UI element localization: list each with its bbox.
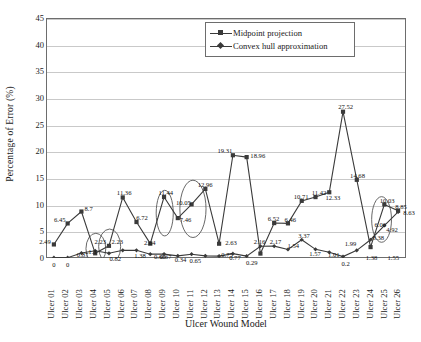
data-point-marker (66, 221, 70, 225)
y-axis-tick-label: 20 (28, 146, 44, 156)
data-point-marker (245, 155, 249, 159)
data-point-label: 6.52 (268, 215, 280, 222)
y-axis-tick-label: 40 (28, 40, 44, 50)
line-marker-square-icon (209, 28, 233, 38)
data-point-label: 2.16 (254, 238, 266, 245)
legend-item: Midpoint projection (209, 27, 350, 39)
x-axis-tick-label: Ulcer 04 (88, 289, 98, 319)
series-line (54, 112, 398, 254)
line-marker-diamond-icon (209, 41, 233, 51)
data-point-marker (107, 244, 111, 248)
data-point-label: 18.96 (250, 152, 265, 159)
data-point-label: 6.45 (54, 216, 66, 223)
data-point-marker (341, 110, 345, 114)
x-axis-tick-label: Ulcer 02 (60, 289, 70, 319)
data-point-label: 10.71 (294, 193, 309, 200)
x-axis-tick-label: Ulcer 17 (268, 289, 278, 319)
x-axis-tick-label: Ulcer 10 (171, 289, 181, 319)
data-point-marker (52, 256, 56, 258)
x-axis-tick-label: Ulcer 20 (309, 289, 319, 319)
data-point-marker (121, 248, 125, 252)
x-axis-tick-label: Ulcer 18 (282, 289, 292, 319)
legend-label: Midpoint projection (233, 28, 302, 38)
legend: Midpoint projection Convex hull approxim… (205, 22, 355, 57)
x-axis-tick-label: Ulcer 06 (116, 289, 126, 319)
data-point-marker (52, 242, 56, 246)
data-point-marker (368, 245, 372, 249)
y-axis-tick-label: 25 (28, 120, 44, 130)
data-point-label: 2.23 (112, 238, 124, 245)
y-axis-tick-label: 5 (28, 226, 44, 236)
y-axis-tick-label: 10 (28, 200, 44, 210)
data-point-label: 12.33 (325, 194, 340, 201)
data-point-label: 7.46 (180, 216, 192, 223)
x-axis-tick-label: Ulcer 09 (157, 289, 167, 319)
x-axis-tick-label: Ulcer 25 (379, 289, 389, 319)
data-point-label: 14.68 (350, 172, 365, 179)
x-axis-tick-label: Ulcer 05 (102, 289, 112, 319)
data-point-marker (203, 254, 207, 258)
data-point-label: 3.37 (298, 232, 310, 239)
data-point-label: 12.96 (198, 181, 213, 188)
data-point-label: 2.49 (39, 238, 51, 245)
data-point-label: 11.44 (158, 189, 173, 196)
data-point-marker (79, 209, 83, 213)
data-point-label: 8.63 (403, 209, 415, 216)
data-point-label: 0.87 (77, 251, 89, 258)
x-axis-tick-label: Ulcer 11 (185, 289, 195, 319)
data-point-label: 1.99 (345, 240, 357, 247)
y-axis-tick-label: 15 (28, 173, 44, 183)
data-point-label: 10.05 (176, 199, 191, 206)
data-point-label: 2.17 (270, 238, 282, 245)
data-point-label: 6.06 (374, 221, 386, 228)
data-point-label: 1.3 (88, 248, 96, 255)
data-point-label: 11.42 (312, 189, 327, 196)
x-axis-title: Ulcer Wound Model (46, 318, 406, 329)
x-axis-tick-label: Ulcer 13 (212, 289, 222, 319)
x-axis-tick-label: Ulcer 03 (74, 289, 84, 319)
y-axis-tick-label: 0 (28, 253, 44, 263)
x-axis-tick-label: Ulcer 14 (226, 289, 236, 319)
data-point-label: 1.57 (309, 250, 321, 257)
data-point-label: 27.52 (338, 103, 353, 110)
x-axis-tick-label: Ulcer 08 (143, 289, 153, 319)
legend-item: Convex hull approximation (209, 40, 350, 52)
data-point-label: 3.38 (373, 234, 385, 241)
data-point-label: 2.64 (144, 239, 156, 246)
x-axis-ticks: Ulcer 01Ulcer 02Ulcer 03Ulcer 04Ulcer 05… (46, 259, 406, 319)
y-axis-tick-label: 35 (28, 66, 44, 76)
data-point-label: 4.92 (386, 226, 398, 233)
chart-container: Percentage of Error (%) 0510152025303540… (0, 0, 421, 342)
y-axis-tick-label: 30 (28, 93, 44, 103)
x-axis-tick-label: Ulcer 15 (240, 289, 250, 319)
data-point-label: 11.36 (117, 189, 132, 196)
data-point-label: 10.03 (380, 197, 395, 204)
x-axis-tick-label: Ulcer 16 (254, 289, 264, 319)
y-axis-tick-label: 45 (28, 13, 44, 23)
data-point-label: 2.63 (225, 239, 237, 246)
data-point-marker (148, 252, 152, 256)
data-point-label: 1.01 (328, 251, 340, 258)
x-axis-tick-label: Ulcer 26 (392, 289, 402, 319)
x-axis-tick-label: Ulcer 23 (351, 289, 361, 319)
data-point-label: 6.72 (136, 214, 148, 221)
data-point-label: 1.38 (134, 252, 146, 259)
y-axis-title: Percentage of Error (%) (2, 0, 18, 268)
x-axis-tick-label: Ulcer 12 (199, 289, 209, 319)
x-axis-tick-label: Ulcer 01 (46, 289, 56, 319)
data-point-label: 19.31 (218, 147, 233, 154)
legend-label: Convex hull approximation (233, 41, 328, 51)
x-axis-tick-label: Ulcer 22 (337, 289, 347, 319)
data-point-label: 1.54 (288, 242, 300, 249)
highlight-ellipse-annotation (180, 180, 206, 237)
x-axis-tick-label: Ulcer 07 (129, 289, 139, 319)
data-point-marker (217, 242, 221, 246)
x-axis-tick-label: Ulcer 19 (296, 289, 306, 319)
x-axis-tick-label: Ulcer 24 (365, 289, 375, 319)
data-point-marker (258, 251, 262, 255)
data-point-marker (341, 255, 345, 258)
x-axis-tick-label: Ulcer 21 (323, 289, 333, 319)
data-point-label: 6.46 (285, 216, 297, 223)
y-axis-ticks: 051015202530354045 (20, 0, 44, 268)
data-point-label: 2.23 (95, 238, 107, 245)
